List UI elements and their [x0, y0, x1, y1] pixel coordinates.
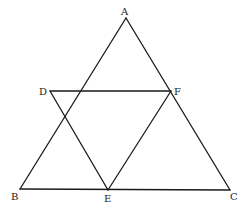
label-c: C	[230, 191, 238, 202]
vertex-labels: A B C D E F	[11, 6, 238, 204]
label-d: D	[39, 86, 47, 97]
segment-ac	[126, 18, 230, 190]
segment-de	[50, 91, 108, 190]
segment-ab	[20, 18, 126, 189]
triangle-diagram: A B C D E F	[0, 0, 243, 205]
label-a: A	[120, 6, 129, 17]
label-b: B	[11, 191, 18, 202]
segments	[20, 18, 230, 190]
segment-ef	[108, 91, 171, 190]
label-e: E	[104, 193, 111, 204]
segment-bc	[20, 189, 230, 190]
label-f: F	[174, 86, 181, 97]
